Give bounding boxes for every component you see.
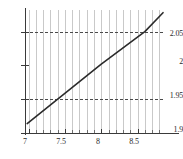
plot-area (25, 10, 163, 133)
x-axis-tick-minor (145, 130, 146, 133)
x-axis-tick-major (65, 129, 66, 134)
x-axis-tick-minor (87, 130, 88, 133)
x-axis-tick-minor (123, 130, 124, 133)
x-tick-label-7-5: 7.5 (49, 137, 73, 146)
x-axis-tick-minor (159, 130, 160, 133)
y-axis-tick (21, 65, 29, 66)
x-axis-tick-minor (36, 130, 37, 133)
x-axis-tick-major (29, 129, 30, 134)
chart-figure: 1.9 1.95 2 2.05 7 7.5 8 8.5 (0, 0, 183, 159)
y-axis-tick (21, 99, 29, 100)
y-axis-line (25, 8, 26, 135)
x-axis-tick-minor (43, 130, 44, 133)
y-tick-label-2-05: 2.05 (161, 30, 183, 38)
x-axis-tick-minor (116, 130, 117, 133)
y-axis-tick (21, 32, 29, 33)
x-axis-tick-major (138, 129, 139, 134)
x-axis-tick-minor (50, 130, 51, 133)
x-axis-tick-minor (94, 130, 95, 133)
y-tick-label-2: 2 (161, 58, 183, 66)
x-axis-tick-major (101, 129, 102, 134)
y-tick-label-1-95: 1.95 (161, 92, 183, 100)
y-tick-label-1-9: 1.9 (161, 126, 183, 134)
x-axis-tick-minor (109, 130, 110, 133)
x-axis-tick-minor (130, 130, 131, 133)
data-series-line (25, 10, 163, 133)
x-axis-tick-minor (72, 130, 73, 133)
x-tick-label-7: 7 (13, 137, 37, 146)
x-tick-label-8: 8 (86, 137, 110, 146)
x-axis-tick-minor (58, 130, 59, 133)
x-axis-tick-minor (79, 130, 80, 133)
x-axis-tick-minor (152, 130, 153, 133)
x-tick-label-8-5: 8.5 (122, 137, 146, 146)
